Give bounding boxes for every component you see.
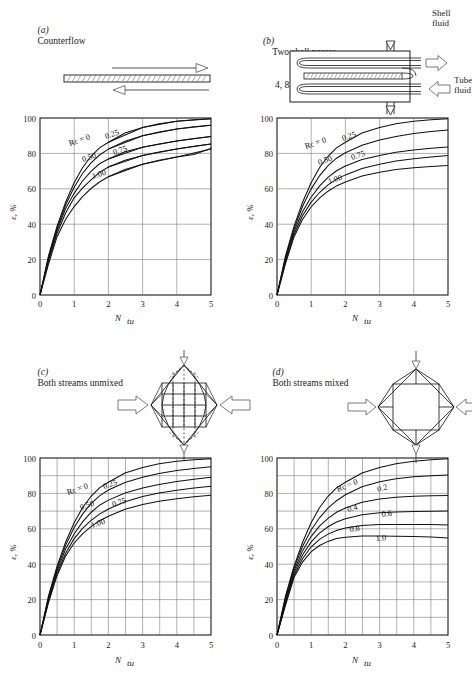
curve-label-d-06: 0.6 [381,509,392,519]
xtick-d-3: 3 [377,640,381,650]
panel-a-letter: (a) [38,25,49,35]
ytick-c-60: 60 [28,524,37,534]
label-shell-fluid-1: Shell [432,8,451,18]
ytick-b-40: 40 [265,220,274,230]
xtick-a-3: 3 [140,299,144,309]
ytick-d-60: 60 [265,524,274,534]
curve-label-a-075: 0.75 [112,144,128,157]
curves-b [277,119,448,295]
chart-c: 100 80 60 40 20 0 0 1 2 3 4 5 ε, % N tu [0,452,236,692]
svg-text:N: N [351,655,359,665]
xtick-d-1: 1 [309,640,313,650]
xtick-d-5: 5 [446,640,450,650]
diagram-counterflow [0,48,236,108]
ytick-a-100: 100 [23,114,36,124]
ytick-b-60: 60 [265,184,274,194]
curve-label-d-02: 0.2 [376,482,388,493]
ytick-c-100: 100 [23,454,36,464]
panel-b: (b) Two shell passes 4, 8, 12. . ., tube… [236,0,472,340]
curve-labels-d: Rc = 0 0.2 0.4 0.6 0.8 1.0 [335,477,392,543]
ylabel-b: ε, % [245,204,255,220]
ytick-b-80: 80 [265,149,274,159]
ytick-b-20: 20 [265,255,274,265]
xlabel-a: N tu [114,313,135,326]
curve-label-a-025: 0.25 [104,128,120,141]
curve-a-100 [40,148,211,296]
diagram-crossflow-mixed [236,345,472,463]
ytick-d-20: 20 [265,595,274,605]
svg-text:tu: tu [127,316,135,326]
ytick-d-100: 100 [260,454,273,464]
xtick-c-2: 2 [106,640,110,650]
xlabel-b: N tu [351,313,372,326]
ytick-a-20: 20 [28,255,37,265]
chart-d: 100 80 60 40 20 0 0 1 2 3 4 5 ε, % N tu [236,452,472,692]
xtick-a-2: 2 [106,299,110,309]
panel-c: (c) Both streams unmixed [0,340,236,699]
xlabel-d: N tu [351,655,372,668]
curve-label-b-025: 0.25 [341,130,357,143]
chart-b: 100 80 60 40 20 0 0 1 2 3 4 5 ε, % N tu [236,112,472,337]
svg-text:N: N [114,313,122,323]
xtick-a-1: 1 [72,299,76,309]
curve-label-a-0: Rc = 0 [68,132,92,148]
curve-label-b-050: 0.50 [317,154,333,167]
svg-text:N: N [351,313,359,323]
curve-label-d-10: 1.0 [376,533,387,543]
panel-a-caption-text: Counterflow [38,36,86,46]
ytick-c-20: 20 [28,595,37,605]
curve-label-b-0: Rc = 0 [304,135,328,151]
label-tube-fluid-2: fluid [454,85,471,95]
xtick-a-0: 0 [38,299,42,309]
ytick-a-40: 40 [28,220,37,230]
xtick-b-0: 0 [275,299,279,309]
curve-label-c-100: 1.00 [90,517,106,530]
ytick-d-40: 40 [265,560,274,570]
xtick-c-5: 5 [209,640,213,650]
curve-label-d-08: 0.8 [349,524,360,534]
chart-a: 100 80 60 40 20 0 0 1 2 3 4 5 ε, % N tu [0,112,236,337]
xtick-b-3: 3 [377,299,381,309]
ytick-c-0: 0 [32,631,36,641]
xlabel-c: N tu [114,655,135,668]
curve-b-100 [277,165,448,295]
ylabel-c: ε, % [8,544,18,560]
curve-label-c-0: Rc = 0 [66,481,90,497]
xtick-c-0: 0 [38,640,42,650]
ytick-a-60: 60 [28,184,37,194]
xtick-b-4: 4 [412,299,417,309]
panel-d: (d) Both streams mixed [236,340,472,699]
curve-label-c-025: 0.25 [102,478,118,491]
label-shell-fluid-2: fluid [432,18,449,28]
xtick-d-2: 2 [343,640,347,650]
xtick-d-0: 0 [275,640,279,650]
xtick-c-4: 4 [175,640,180,650]
xtick-c-1: 1 [72,640,76,650]
ytick-d-80: 80 [265,489,274,499]
xtick-a-4: 4 [175,299,180,309]
ytick-d-0: 0 [269,631,273,641]
svg-text:tu: tu [364,316,372,326]
xtick-b-5: 5 [446,299,450,309]
xtick-a-5: 5 [209,299,213,309]
ytick-a-80: 80 [28,149,37,159]
panel-a: (a) Counterflow [0,0,236,340]
xtick-b-1: 1 [309,299,313,309]
curve-label-a-050: 0.50 [81,151,97,164]
xtick-d-4: 4 [412,640,417,650]
curve-b-050 [277,147,448,295]
svg-text:tu: tu [364,658,372,668]
svg-text:N: N [114,655,122,665]
svg-text:tu: tu [127,658,135,668]
ytick-b-100: 100 [260,114,273,124]
ytick-a-0: 0 [32,291,36,301]
label-tube-fluid-1: Tube [454,75,472,85]
ytick-b-0: 0 [269,291,273,301]
ylabel-d: ε, % [245,544,255,560]
ylabel-a: ε, % [8,204,18,220]
ytick-c-80: 80 [28,489,37,499]
curve-label-c-050: 0.50 [79,499,95,512]
curve-label-b-075: 0.75 [350,149,366,162]
curve-label-d-0: Rc = 0 [335,477,359,494]
xtick-b-2: 2 [343,299,347,309]
